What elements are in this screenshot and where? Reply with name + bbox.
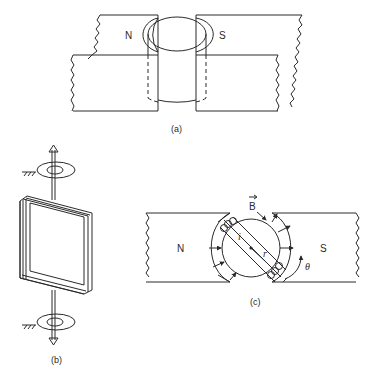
label-field-b: B	[249, 201, 256, 212]
bottom-axis-arrow	[49, 290, 58, 345]
caption-a: (a)	[171, 124, 182, 134]
left-pole-block	[71, 15, 158, 111]
caption-c: (c)	[250, 297, 261, 307]
rectangular-coil	[20, 196, 92, 294]
field-b-arrow	[257, 212, 266, 220]
top-axis-arrow	[49, 145, 58, 200]
rotor-cylinder	[148, 17, 206, 102]
panel-c-cross-section: B i r θ N S (c)	[146, 195, 359, 307]
label-north-c: N	[177, 243, 184, 254]
caption-b: (b)	[51, 355, 62, 365]
label-north-a: N	[125, 30, 132, 41]
top-torsion-spiral-icon	[37, 162, 75, 178]
label-radius-r: r	[263, 248, 267, 259]
panel-a-magnet-with-rotor: N S (a)	[71, 15, 302, 134]
label-theta: θ	[305, 261, 310, 272]
bottom-torsion-spiral-icon	[37, 314, 75, 330]
label-south-a: S	[219, 30, 226, 41]
diagram: N S (a) (b)	[0, 0, 372, 377]
panel-b-suspended-coil: (b)	[20, 145, 92, 365]
label-south-c: S	[320, 243, 327, 254]
label-current-i: i	[238, 231, 241, 242]
theta-angle-arc	[285, 256, 301, 279]
figure-canvas: N S (a) (b)	[0, 0, 372, 377]
